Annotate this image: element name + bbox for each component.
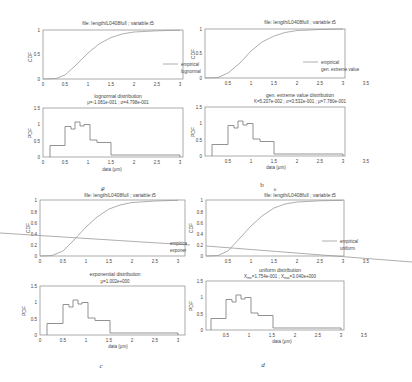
xtick: 1 — [87, 82, 90, 87]
ytick: 0 — [199, 76, 202, 81]
ytick: 1 — [37, 28, 40, 33]
ytick: 0.4 — [197, 232, 204, 237]
xtick: 2.5 — [154, 82, 161, 87]
ytick: 1.5 — [196, 105, 203, 110]
xtick: 1.5 — [106, 259, 113, 264]
pdf-title-d: uniform distribution — [259, 267, 301, 273]
xtick: 0.5 — [225, 259, 232, 264]
ytick: 0.4 — [31, 232, 38, 237]
ytick: 1.5 — [197, 279, 204, 284]
ytick: 0.5 — [31, 317, 38, 322]
xtick: 1 — [250, 81, 253, 86]
figure: .ax { fill:none; stroke:#888; stroke-wid… — [0, 0, 412, 382]
cdf-plot-c: file: length/L0408full ; variable:t5 CDF… — [0, 192, 190, 264]
cdf-ylabel-a: CDF — [27, 52, 33, 62]
xtick: 0 — [42, 82, 45, 87]
xtick: 3.5 — [363, 81, 370, 86]
pdf-ylabel-d: PDF — [188, 301, 194, 311]
xtick: 3 — [179, 160, 182, 165]
xtick: 1 — [248, 333, 251, 338]
xtick: 0.5 — [62, 82, 69, 87]
xtick: 3 — [177, 259, 180, 264]
pdf-plot-d: uniform distribution Xmin=1.754e-001 ; X… — [188, 267, 368, 344]
legend-empirical-d: empirical — [340, 239, 358, 244]
pdf-params-c: μ=1.002e+000 — [100, 279, 130, 284]
pdf-axes-b — [205, 107, 345, 156]
xtick: 3 — [342, 259, 345, 264]
pdf-xlabel-c: data (μm) — [108, 344, 128, 349]
pdf-title-c: exponential distribution — [89, 271, 140, 277]
ytick: 0 — [200, 328, 203, 333]
ytick: 0.5 — [34, 52, 41, 57]
xtick: 0.5 — [223, 333, 230, 338]
xtick: 0.5 — [62, 160, 69, 165]
pdf-axes-d — [206, 281, 344, 330]
uniform-curve-d — [206, 246, 412, 262]
pdf-ylabel-a: PDF — [27, 128, 33, 138]
pdf-plot-b: gen. extreme value distribution K=5.207e… — [190, 92, 370, 170]
xtick: 0.5 — [60, 259, 67, 264]
xtick: 1 — [87, 160, 90, 165]
ytick: 0.5 — [34, 139, 41, 144]
pdf-plot-c: exponential distribution μ=1.002e+000 PD… — [21, 271, 185, 349]
xtick: 3.5 — [361, 333, 368, 338]
caption-b: b — [260, 181, 264, 189]
xtick: 3.5 — [363, 259, 370, 264]
cdf-plot-b: file: length/L0408full ; variable:t5 CDF… — [190, 19, 370, 86]
legend-empirical-b: empirical — [321, 60, 339, 65]
cdf-xticks-c: 0 0.5 1 1.5 2 2.5 3 — [39, 259, 180, 264]
cdf-curve-a — [43, 30, 180, 79]
panel-c: a file: length/L0408full ; variable:t5 C… — [0, 187, 190, 370]
legend-gev-b: gen. extreme value — [321, 67, 360, 72]
ytick: 0 — [34, 254, 37, 259]
ytick: 1 — [34, 198, 37, 203]
pdf-xticks-c: 0 0.5 1 1.5 2 2.5 3 — [39, 338, 180, 343]
xtick: 3 — [179, 82, 182, 87]
pdf-title-b: gen. extreme value distribution — [266, 92, 334, 98]
xtick: 2 — [296, 259, 299, 264]
xtick: 3 — [177, 338, 180, 343]
xtick: 1 — [85, 259, 88, 264]
ytick: 0 — [199, 154, 202, 159]
ytick: 0.6 — [197, 221, 204, 226]
pdf-xlabel-b: data (μm) — [266, 165, 286, 170]
pdf-params-d: Xmin=1.754e-001 ; Xmax=3.040e+000 — [244, 274, 317, 280]
cdf-axes-a — [43, 30, 183, 79]
xtick: 0.5 — [60, 338, 67, 343]
xtick: 2 — [294, 333, 297, 338]
ytick: 1.5 — [31, 284, 38, 289]
xtick: 0 — [42, 160, 45, 165]
legend-lognormal-a: lognormal — [181, 69, 201, 74]
panel-b: file: length/L0408full ; variable:t5 CDF… — [190, 19, 370, 189]
ytick: 1 — [37, 122, 40, 127]
ytick: 1 — [200, 198, 203, 203]
legend-uniform-d: uniform — [340, 246, 355, 251]
xtick: 2.5 — [317, 259, 324, 264]
xtick: 1 — [85, 338, 88, 343]
ytick: 0 — [37, 155, 40, 160]
xtick: 2.5 — [317, 159, 324, 164]
xtick: 1.5 — [271, 259, 278, 264]
pdf-plot-a: lognormal distribution μ=-1.081e-001 ; σ… — [27, 93, 183, 172]
pdf-xticks-b: 0.5 1 1.5 2 2.5 3 3.5 — [225, 159, 370, 164]
pdf-xlabel-d: data (μm) — [272, 339, 292, 344]
ytick: 0.8 — [31, 210, 38, 215]
xtick: 1.5 — [108, 160, 115, 165]
xtick: 3 — [340, 333, 343, 338]
xtick: 2 — [133, 82, 136, 87]
caption-d: d — [261, 361, 265, 369]
ytick: 1 — [199, 121, 202, 126]
exponential-curve-c — [0, 233, 190, 245]
xtick: 2.5 — [154, 160, 161, 165]
pdf-params-a: μ=-1.081e-001 ; σ=4.798e-001 — [87, 100, 149, 105]
cdf-xticks-a: 0 0.5 1 1.5 2 2.5 3 — [42, 82, 182, 87]
pdf-histogram-a — [50, 122, 180, 157]
xtick: 2.5 — [317, 81, 324, 86]
pdf-ylabel-c: PDF — [21, 306, 27, 316]
ytick: 0.8 — [197, 210, 204, 215]
xtick: 1.5 — [271, 81, 278, 86]
cdf-axes-c — [40, 200, 185, 256]
ytick: 0.6 — [31, 221, 38, 226]
panel-d: b file: length/L0408full ; variable:t5 C… — [188, 187, 412, 369]
xtick: 3 — [342, 159, 345, 164]
